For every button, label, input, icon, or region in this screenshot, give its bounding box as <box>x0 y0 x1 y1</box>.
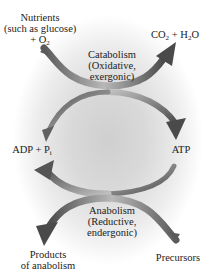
co2-h2o-label: CO2 + H2O <box>138 29 212 44</box>
nutrients-label: Nutrients (such as glucose) + O2 <box>4 12 76 49</box>
atp-synthesis-arrow <box>108 92 186 140</box>
products-line-2: of anabolism <box>16 260 80 271</box>
catabolism-desc-2: exergonic) <box>82 71 142 82</box>
adp-formation-arrow <box>34 160 108 194</box>
metabolism-diagram: Nutrients (such as glucose) + O2 CO2 + H… <box>0 0 216 277</box>
anabolism-label: Anabolism (Reductive, endergonic) <box>82 205 142 238</box>
catabolism-title: Catabolism <box>82 49 142 60</box>
adp-pi-label: ADP + Pi <box>6 144 58 159</box>
nutrients-line-2: (such as glucose) <box>4 23 76 34</box>
products-line-1: Products <box>16 249 80 260</box>
products-label: Products of anabolism <box>16 249 80 271</box>
nutrients-line-1: Nutrients <box>4 12 76 23</box>
adp-prefix: ADP + P <box>12 144 50 155</box>
atp-label: ATP <box>166 144 196 155</box>
catabolism-desc-1: (Oxidative, <box>82 60 142 71</box>
anabolism-title: Anabolism <box>82 205 142 216</box>
oxygen-subscript: 2 <box>46 39 50 47</box>
adp-return-arrow <box>42 92 108 142</box>
anabolism-desc-2: endergonic) <box>82 227 142 238</box>
oxygen-prefix: + O <box>30 34 46 45</box>
nutrients-line-3: + O2 <box>4 34 76 49</box>
anabolism-desc-1: (Reductive, <box>82 216 142 227</box>
h2o-suffix: O <box>191 29 199 40</box>
precursors-label: Precursors <box>150 252 206 263</box>
atp-hydrolysis-arrow <box>108 166 174 194</box>
co2-prefix: CO <box>151 29 166 40</box>
plus-h: + H <box>169 29 188 40</box>
catabolism-label: Catabolism (Oxidative, exergonic) <box>82 49 142 82</box>
pi-subscript: i <box>50 149 52 157</box>
